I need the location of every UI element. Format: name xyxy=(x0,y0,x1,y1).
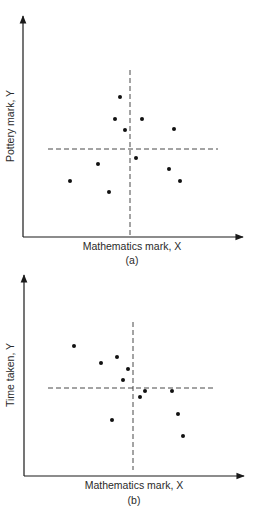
data-point xyxy=(134,156,138,160)
data-points xyxy=(72,344,185,438)
data-point xyxy=(110,418,114,422)
data-point xyxy=(181,434,185,438)
data-point xyxy=(178,179,182,183)
data-point xyxy=(143,389,147,393)
data-point xyxy=(72,344,76,348)
x-axis-label: Mathematics mark, X xyxy=(85,479,184,491)
data-point xyxy=(118,95,122,99)
data-point xyxy=(113,117,117,121)
scatter-panel-b: Time taken, Y Mathematics mark, X (b) xyxy=(4,275,244,506)
data-point xyxy=(126,367,130,371)
scatter-panel-a: Pottery mark, Y Mathematics mark, X (a) xyxy=(4,16,243,266)
data-point xyxy=(115,355,119,359)
data-point xyxy=(121,378,125,382)
y-axis-label: Pottery mark, Y xyxy=(4,90,16,162)
data-point xyxy=(68,179,72,183)
panel-caption: (a) xyxy=(126,254,139,266)
data-point xyxy=(123,128,127,132)
data-point xyxy=(176,412,180,416)
panel-caption: (b) xyxy=(128,494,141,506)
x-axis-label: Mathematics mark, X xyxy=(83,240,182,252)
data-point xyxy=(107,190,111,194)
data-points xyxy=(68,95,182,194)
data-point xyxy=(172,127,176,131)
data-point xyxy=(138,395,142,399)
y-axis-label: Time taken, Y xyxy=(4,343,16,407)
data-point xyxy=(167,167,171,171)
data-point xyxy=(140,117,144,121)
data-point xyxy=(170,389,174,393)
data-point xyxy=(99,361,103,365)
data-point xyxy=(96,162,100,166)
figure-canvas: Pottery mark, Y Mathematics mark, X (a) … xyxy=(0,0,255,516)
